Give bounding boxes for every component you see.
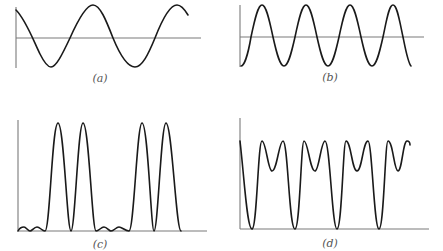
- panel-a-label: (a): [92, 72, 107, 85]
- panel-b-label: (b): [322, 71, 338, 84]
- panel-c: [18, 120, 207, 231]
- figure: (a) (b) (c) (d): [0, 0, 443, 251]
- panel-c-curve: [18, 123, 181, 231]
- panel-b-curve: [241, 5, 411, 66]
- panel-c-label: (c): [93, 238, 108, 251]
- panel-d: [240, 118, 429, 229]
- panel-a-curve: [16, 5, 188, 67]
- panel-d-label: (d): [322, 237, 338, 250]
- panel-b: [240, 5, 424, 67]
- panel-a: [16, 5, 201, 68]
- panel-d-curve: [240, 141, 410, 229]
